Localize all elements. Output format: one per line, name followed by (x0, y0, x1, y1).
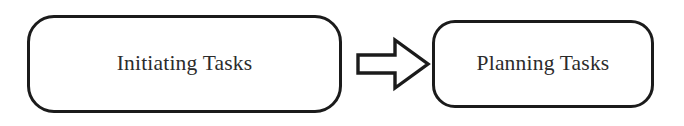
arrow-right-shape (358, 40, 428, 88)
node-initiating-tasks[interactable]: Initiating Tasks (27, 15, 342, 113)
node-initiating-tasks-label: Initiating Tasks (117, 53, 253, 75)
arrow-right-glyph (355, 37, 431, 91)
node-planning-tasks-label: Planning Tasks (477, 53, 610, 75)
diagram-canvas: Initiating Tasks Planning Tasks (0, 0, 684, 126)
arrow-right-icon (355, 37, 431, 91)
node-planning-tasks[interactable]: Planning Tasks (432, 20, 654, 108)
